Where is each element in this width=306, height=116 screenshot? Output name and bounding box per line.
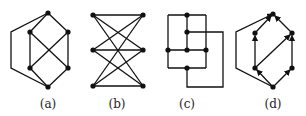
panel-c-label: (c): [179, 97, 195, 111]
graph-node: [27, 29, 32, 34]
graph-node: [45, 10, 50, 15]
graph-node: [165, 47, 170, 52]
graph-node: [252, 65, 257, 70]
graph-node: [184, 12, 189, 17]
graph-node: [65, 29, 70, 34]
panel-a-label: (a): [40, 97, 57, 111]
graph-node: [90, 83, 95, 88]
graph-node: [27, 65, 32, 70]
graph-node: [90, 12, 95, 17]
graph-node: [140, 83, 145, 88]
graph-node: [90, 47, 95, 52]
panel-b-graph: [90, 12, 145, 88]
graph-edge: [30, 68, 48, 87]
graph-edge: [187, 32, 223, 87]
panel-d-label: (d): [264, 97, 281, 111]
graph-edge: [48, 68, 68, 87]
graph-node: [289, 30, 294, 35]
graph-node: [203, 47, 208, 52]
graph-edge: [48, 13, 68, 32]
graph-node: [184, 29, 189, 34]
graph-node: [65, 65, 70, 70]
graph-node: [270, 11, 275, 16]
directed-arc: [255, 35, 290, 68]
graph-node: [140, 47, 145, 52]
graph-node: [270, 84, 275, 89]
directed-arc: [257, 70, 273, 87]
graph-node: [184, 65, 189, 70]
panel-b-label: (b): [108, 97, 125, 111]
graph-node: [184, 47, 189, 52]
graph-node: [45, 84, 50, 89]
graph-node: [252, 30, 257, 35]
graph-node: [140, 12, 145, 17]
panel-a-graph: [11, 10, 71, 89]
panel-c-graph: [165, 12, 223, 87]
directed-arc: [273, 70, 290, 87]
directed-arc: [275, 16, 292, 33]
panel-d-digraph: [236, 11, 295, 89]
graph-node: [289, 65, 294, 70]
graph-edge: [30, 13, 48, 32]
graph-figure: (a) (b) (c) (d): [0, 0, 306, 116]
